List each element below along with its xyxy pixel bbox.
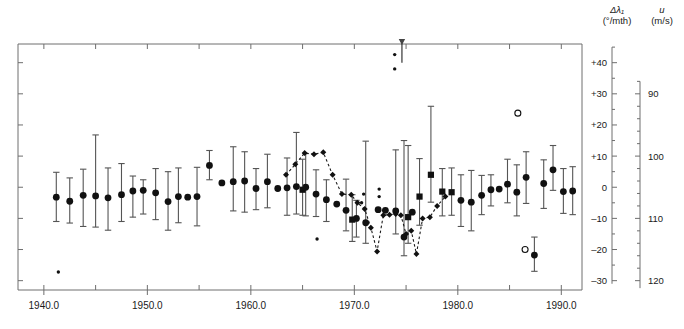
right-axis-tick-label: 110 [648,213,663,224]
small-dot-outlier [315,237,318,240]
data-point-square-marker [428,172,434,178]
data-point-circle-marker [504,181,511,188]
data-point-square-marker [299,187,305,193]
data-point-circle-marker [92,193,99,200]
data-point-circle-marker [66,198,73,205]
data-point-square-marker [449,189,455,195]
small-dot-outlier [393,53,396,56]
data-point-square-marker [416,193,422,199]
left-axis-tick-label: +20 [591,119,607,130]
x-axis-tick-label: 1980.0 [443,300,474,311]
data-point-circle-marker [523,174,530,181]
x-axis-tick-label: 1960.0 [236,300,267,311]
data-point-circle-marker [513,189,520,196]
right-axis-tick-label: 90 [648,88,659,99]
data-point-circle-marker [194,193,201,200]
data-point-circle-marker [569,188,576,195]
dotted-trend-marker [362,206,368,212]
data-point-circle-marker [362,219,369,226]
data-point-circle-marker [274,185,281,192]
data-point-circle-marker [496,186,503,193]
figure-root: –30–20–100+10+20+30+40120110100901940.01… [0,0,684,329]
left-axis-tick-label: –10 [591,213,607,224]
left-axis-tick-label: 0 [602,182,607,193]
dotted-trend-marker [339,191,345,197]
right-axis-tick-label: 100 [648,151,664,162]
plot-frame [18,44,582,290]
data-point-circle-marker [206,162,213,169]
data-point-square-marker [439,189,445,195]
data-point-circle-marker [333,201,340,208]
data-point-circle-marker [230,178,237,185]
data-point-circle-marker [140,187,147,194]
data-point-circle-marker [253,185,260,192]
left-axis-tick-label: +40 [591,57,607,68]
small-dot-outlier [393,67,396,70]
data-point-circle-marker [184,194,191,201]
small-dot-outlier [377,187,380,190]
right-axis-title-unit: (m/s) [640,15,684,26]
data-point-circle-marker [375,206,382,213]
data-point-circle-marker [458,197,465,204]
dotted-trend-marker [330,172,336,178]
left-axis-title-unit: (°/mth) [586,15,648,26]
data-point-circle-marker [53,194,60,201]
data-point-circle-marker [550,166,557,173]
small-dot-outlier [57,270,60,273]
data-point-circle-marker [323,196,330,203]
data-point-circle-marker [80,192,87,199]
dotted-trend-marker [420,215,426,221]
left-axis-tick-label: –20 [591,244,607,255]
dotted-trend-marker [311,151,317,157]
dotted-trend-marker [408,228,414,234]
open-circle-outlier [522,247,528,253]
data-point-circle-marker [478,192,485,199]
dotted-trend-marker [283,172,289,178]
data-point-circle-marker [105,194,112,201]
dotted-trend-marker [368,225,374,231]
dotted-trend-marker [427,214,433,220]
data-point-circle-marker [264,178,271,185]
small-dot-outlier [362,192,365,195]
data-point-circle-marker [540,180,547,187]
data-point-circle-marker [241,178,248,185]
x-axis-tick-label: 1950.0 [132,300,163,311]
right-axis-title: u (m/s) [640,4,684,26]
left-axis-tick-label: –30 [591,275,607,286]
data-point-circle-marker [560,188,567,195]
data-point-square-marker [349,217,355,223]
data-point-circle-marker [129,188,136,195]
data-point-circle-marker [175,193,182,200]
dotted-trend-marker [413,251,419,257]
right-axis-tick-label: 120 [648,275,664,286]
left-axis-tick-label: +10 [591,151,607,162]
x-axis-tick-label: 1990.0 [546,300,577,311]
data-point-circle-marker [284,184,291,191]
data-point-circle-marker [488,186,495,193]
left-axis-tick-label: +30 [591,88,607,99]
data-point-circle-marker [152,189,159,196]
open-circle-outlier [515,110,521,116]
data-point-circle-marker [293,183,300,190]
left-axis-title-symbol: Δλ₁ [586,4,648,15]
x-axis-tick-label: 1940.0 [29,300,60,311]
left-axis-title: Δλ₁ (°/mth) [586,4,648,26]
small-dot-outlier [377,195,380,198]
small-dot-outlier [360,201,363,204]
data-point-circle-marker [165,198,172,205]
dotted-trend-marker [320,149,326,155]
x-axis-tick-label: 1970.0 [339,300,370,311]
data-point-circle-marker [313,191,320,198]
data-point-circle-marker [343,207,350,214]
dotted-trend-marker [374,248,380,254]
data-point-square-marker [405,214,411,220]
data-point-circle-marker [531,252,538,259]
data-point-circle-marker [118,191,125,198]
dotted-trend-marker [398,212,404,218]
dotted-trend-marker [434,203,440,209]
right-axis-title-symbol: u [640,4,684,15]
data-point-circle-marker [468,199,475,206]
data-point-circle-marker [218,179,225,186]
